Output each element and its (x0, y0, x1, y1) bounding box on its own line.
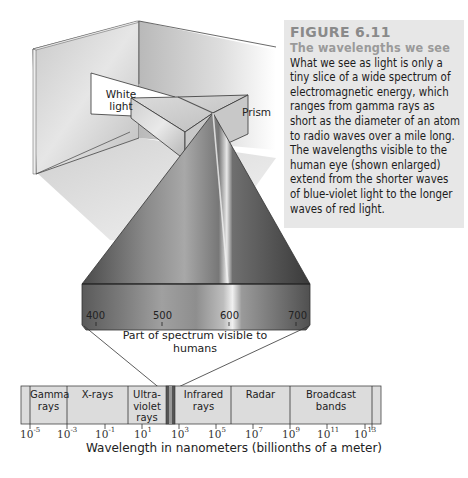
nm-tick-400: 400 (86, 310, 105, 321)
tick-1e1: 101 (134, 428, 152, 440)
caption-text: What we see as light is only a tiny slic… (290, 56, 460, 216)
caption-body: The wavelengths we see What we see as li… (290, 41, 460, 216)
tick-1e-5: 10-5 (20, 428, 40, 440)
caption-title: The wavelengths we see (290, 40, 450, 55)
tick-1e3: 103 (171, 428, 189, 440)
prism-label: Prism (242, 106, 271, 118)
band-broadcast: Broadcast bands (290, 389, 372, 412)
band-x-rays: X-rays (67, 389, 128, 401)
tick-1e11: 1011 (317, 428, 339, 440)
visible-spectrum-label: Part of spectrum visible to humans (120, 329, 270, 355)
band-infrared: Infrared rays (176, 389, 231, 412)
figure-caption: FIGURE 6.11 The wavelengths we see What … (284, 20, 464, 228)
band-gamma-rays: Gamma rays (30, 389, 67, 412)
nm-tick-700: 700 (288, 310, 307, 321)
band-radar: Radar (231, 389, 290, 401)
tick-1e9: 109 (282, 428, 300, 440)
nm-tick-600: 600 (220, 310, 239, 321)
tick-1e-1: 10-1 (95, 428, 115, 440)
nm-tick-500: 500 (153, 310, 172, 321)
tick-1e-3: 10-3 (57, 428, 77, 440)
tick-1e7: 107 (245, 428, 263, 440)
white-light-label: White light (101, 88, 141, 112)
figure-number: FIGURE 6.11 (290, 24, 460, 41)
tick-1e5: 105 (208, 428, 226, 440)
band-ultraviolet: Ultra-violet rays (130, 389, 164, 424)
tick-1e13: 1013 (354, 428, 376, 440)
visible-spectrum-band (82, 284, 310, 330)
axis-title: Wavelength in nanometers (billionths of … (0, 441, 468, 455)
